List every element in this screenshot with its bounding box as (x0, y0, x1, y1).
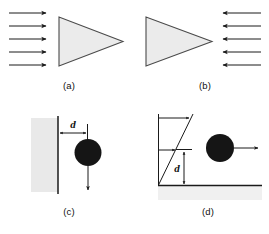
panel-caption-a: (a) (63, 80, 75, 91)
wall-hatch-region-c (31, 118, 58, 192)
figure-container: (a) (b) d (c) (0, 0, 269, 234)
dimension-d-d: d (174, 150, 192, 185)
physics-figure: (a) (b) d (c) (0, 0, 269, 234)
disc-d (206, 134, 234, 162)
wedge-shape-a (59, 17, 123, 66)
panel-caption-b: (b) (199, 80, 211, 91)
panel-b-flow-arrows (223, 13, 261, 65)
dimension-label-d-c: d (70, 118, 76, 130)
dimension-d-c: d (60, 118, 88, 140)
panel-caption-d: (d) (202, 206, 214, 217)
panel-c: d (c) (31, 116, 102, 217)
dimension-label-d-d: d (174, 162, 180, 174)
ground-hatch-region-d (158, 186, 262, 200)
disc-c (75, 139, 102, 166)
panel-caption-c: (c) (63, 206, 75, 217)
panel-a-flow-arrows (9, 13, 46, 65)
panel-d: d (d) (158, 114, 262, 217)
panel-b: (b) (146, 13, 261, 91)
panel-a: (a) (9, 13, 123, 91)
wedge-shape-b (146, 17, 212, 66)
